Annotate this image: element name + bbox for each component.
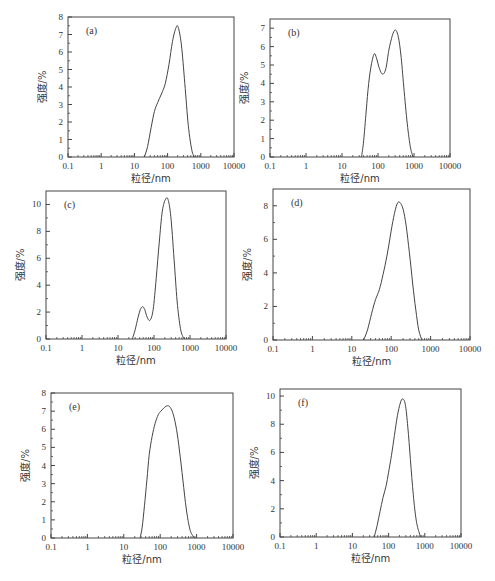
- y-tick-label: 2: [271, 504, 276, 514]
- plot-frame: [280, 389, 461, 537]
- x-tick-label: 0.1: [274, 541, 285, 551]
- y-tick-label: 0: [271, 532, 276, 542]
- y-axis: 0246810: [266, 391, 284, 542]
- y-axis-title: 强度/%: [248, 447, 260, 480]
- x-tick-label: 1000: [416, 541, 435, 551]
- x-axis: 0.1110100100010000: [274, 533, 472, 551]
- x-axis-title: 粒径/nm: [351, 552, 390, 564]
- x-tick-label: 10: [348, 541, 358, 551]
- panel-label: (f): [298, 397, 308, 409]
- chart-svg: 0.1110100100010000粒径/nm0246810强度/%(f): [0, 0, 495, 581]
- y-tick-label: 10: [266, 391, 276, 401]
- x-tick-label: 10000: [450, 541, 473, 551]
- y-tick-label: 6: [271, 447, 276, 457]
- size-distribution-curve: [374, 399, 421, 537]
- x-tick-label: 100: [382, 541, 396, 551]
- x-tick-label: 1: [314, 541, 319, 551]
- y-tick-label: 4: [271, 476, 276, 486]
- y-tick-label: 8: [271, 419, 276, 429]
